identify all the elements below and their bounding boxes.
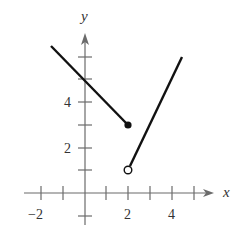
x-tick-label: 2 xyxy=(124,207,131,222)
y-tick-label: 4 xyxy=(64,95,71,110)
right-piece-line xyxy=(130,57,182,166)
x-tick-label: −2 xyxy=(28,207,43,222)
x-tick-label: 4 xyxy=(168,207,175,222)
piecewise-function-graph: −2 2 4 2 4 x y xyxy=(0,0,246,234)
y-axis-label: y xyxy=(79,8,88,24)
closed-endpoint-marker xyxy=(124,121,131,128)
x-axis-label: x xyxy=(222,184,230,200)
left-piece-line xyxy=(51,46,128,125)
open-endpoint-marker xyxy=(124,166,132,174)
y-tick-label: 2 xyxy=(64,141,71,156)
